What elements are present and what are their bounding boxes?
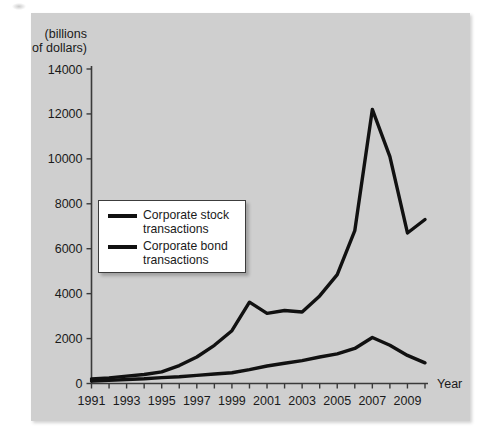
y-axis-tick-label: 10000 bbox=[48, 152, 83, 166]
line-chart: (billions of dollars) 140001200010000800… bbox=[0, 0, 500, 432]
x-axis-tick-label: 1993 bbox=[113, 394, 141, 408]
x-axis-tick-label: 2001 bbox=[253, 394, 281, 408]
y-axis-tick-label: 4000 bbox=[55, 287, 83, 301]
y-axis-tick-label: 14000 bbox=[48, 63, 83, 77]
x-axis-tick-label: 1997 bbox=[183, 394, 211, 408]
legend-label: Corporate stock transactions bbox=[143, 208, 229, 236]
y-axis-tick-label: 8000 bbox=[55, 197, 83, 211]
x-axis-tick-label: 2003 bbox=[288, 394, 316, 408]
chart-legend: Corporate stock transactions Corporate b… bbox=[98, 200, 246, 273]
legend-swatch-icon bbox=[108, 245, 137, 249]
legend-item-corporate-bond: Corporate bond transactions bbox=[108, 239, 245, 267]
legend-label: Corporate bond transactions bbox=[143, 239, 228, 267]
y-axis-tick-label: 12000 bbox=[48, 107, 83, 121]
y-axis-ticks: 14000120001000080006000400020000 bbox=[48, 63, 92, 392]
y-axis-tick-label: 0 bbox=[76, 377, 83, 391]
x-axis-tick-label: 2007 bbox=[358, 394, 386, 408]
x-axis-tick-label: 1999 bbox=[218, 394, 246, 408]
x-axis-tick-label: 1991 bbox=[78, 394, 106, 408]
x-axis-tick-label: 2009 bbox=[394, 394, 422, 408]
x-axis-ticks: 1991199319951997199920012003200520072009 bbox=[78, 384, 425, 408]
legend-swatch-icon bbox=[108, 214, 137, 218]
x-axis-caption: Year bbox=[437, 377, 462, 391]
y-axis-tick-label: 2000 bbox=[55, 332, 83, 346]
x-axis-tick-label: 2005 bbox=[323, 394, 351, 408]
legend-item-corporate-stock: Corporate stock transactions bbox=[108, 208, 245, 236]
y-axis-tick-label: 6000 bbox=[55, 242, 83, 256]
y-axis-caption-line1: (billions bbox=[45, 27, 87, 41]
x-axis-tick-label: 1995 bbox=[148, 394, 176, 408]
y-axis-caption-line2: of dollars) bbox=[32, 41, 87, 55]
